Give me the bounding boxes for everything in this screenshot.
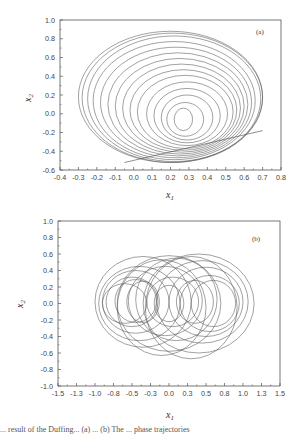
trajectory-loop [167, 103, 204, 137]
trajectory-loop [147, 277, 199, 327]
x-tick-label: 0.0 [164, 389, 174, 398]
x-tick-label: 1.3 [257, 389, 267, 398]
x-tick-label: 0.0 [129, 173, 139, 182]
chart-panel-b: -1.5-1.3-1.0-0.8-0.5-0.30.00.30.50.81.01… [14, 217, 285, 423]
y-tick-label: -0.4 [41, 332, 53, 341]
x-tick-label: 0.4 [202, 173, 212, 182]
x-tick-label: -0.3 [72, 173, 84, 182]
x-axis-title-a: x1 [165, 189, 174, 202]
x-tick-label: 0.5 [221, 173, 231, 182]
y-tick-label: 0.8 [45, 34, 55, 43]
x-tick-label: -0.8 [107, 389, 119, 398]
x-axis-title-b: x1 [165, 409, 174, 422]
panel-label-a: (a) [256, 28, 264, 36]
x-tick-label: -1.3 [70, 389, 82, 398]
trajectory-loop [137, 75, 233, 148]
trajectory-loop [161, 95, 213, 140]
x-tick-label: 0.3 [184, 173, 194, 182]
x-tick-label: 0.7 [258, 173, 268, 182]
x-tick-label: 0.5 [201, 389, 211, 398]
trajectory-loop [102, 284, 146, 324]
y-tick-label: 0.6 [45, 53, 55, 62]
y-tick-label: 0.4 [45, 72, 55, 81]
x-tick-label: 0.3 [183, 389, 193, 398]
x-tick-label: -1.0 [89, 389, 101, 398]
y-tick-label: -0.2 [43, 128, 55, 137]
x-tick-label: -1.5 [52, 389, 64, 398]
y-tick-label: 0.6 [43, 250, 53, 259]
y-tick-label: -0.4 [43, 147, 55, 156]
y-tick-label: -0.8 [41, 365, 53, 374]
x-tick-label: 1.0 [238, 389, 248, 398]
y-tick-label: 0.0 [45, 109, 55, 118]
trajectory-loop [108, 53, 248, 156]
y-tick-label: -1.0 [41, 382, 53, 391]
y-tick-label: -0.6 [43, 166, 55, 175]
y-tick-label: 0.0 [43, 299, 53, 308]
panel-label-b: (b) [252, 235, 261, 243]
x-tick-label: 0.2 [166, 173, 176, 182]
x-tick-label: -0.4 [54, 173, 66, 182]
figure-caption: ... result of the Duffing... (a) ... (b)… [0, 425, 301, 434]
x-tick-label: 0.1 [147, 173, 157, 182]
x-tick-label: -0.5 [126, 389, 138, 398]
y-tick-label: 0.2 [45, 91, 55, 100]
trajectory-loop [174, 108, 192, 131]
phase-trajectory-a [78, 31, 262, 162]
y-tick-label: 0.2 [43, 283, 53, 292]
trajectory-loop [117, 260, 206, 356]
trajectory-loop [154, 88, 220, 142]
plot-frame-a [60, 20, 281, 170]
y-tick-label: 0.4 [43, 266, 53, 275]
x-axis-ticks-b: -1.5-1.3-1.0-0.8-0.5-0.30.00.30.50.81.01… [52, 383, 285, 398]
figure-canvas: -0.4-0.3-0.2-0.10.00.10.20.30.40.50.60.7… [0, 0, 301, 434]
y-tick-label: 0.8 [43, 233, 53, 242]
trajectory-loop [115, 58, 244, 154]
y-axis-title-a: x2 [22, 94, 35, 103]
phase-trajectory-b [95, 254, 254, 359]
x-tick-label: 0.6 [239, 173, 249, 182]
y-tick-label: -0.6 [41, 349, 53, 358]
x-axis-ticks-a: -0.4-0.3-0.2-0.10.00.10.20.30.40.50.60.7… [54, 167, 286, 182]
x-tick-label: 1.5 [275, 389, 285, 398]
y-tick-label: -0.2 [41, 316, 53, 325]
y-tick-label: 1.0 [45, 16, 55, 25]
trajectory-loop [176, 280, 213, 323]
x-tick-label: -0.3 [144, 389, 156, 398]
y-tick-label: 1.0 [43, 217, 53, 226]
x-tick-label: -0.1 [109, 173, 121, 182]
x-tick-label: 0.8 [220, 389, 230, 398]
y-axis-title-b: x2 [14, 300, 27, 309]
x-tick-label: -0.2 [91, 173, 103, 182]
chart-panel-a: -0.4-0.3-0.2-0.10.00.10.20.30.40.50.60.7… [22, 16, 286, 203]
x-tick-label: 0.8 [276, 173, 286, 182]
